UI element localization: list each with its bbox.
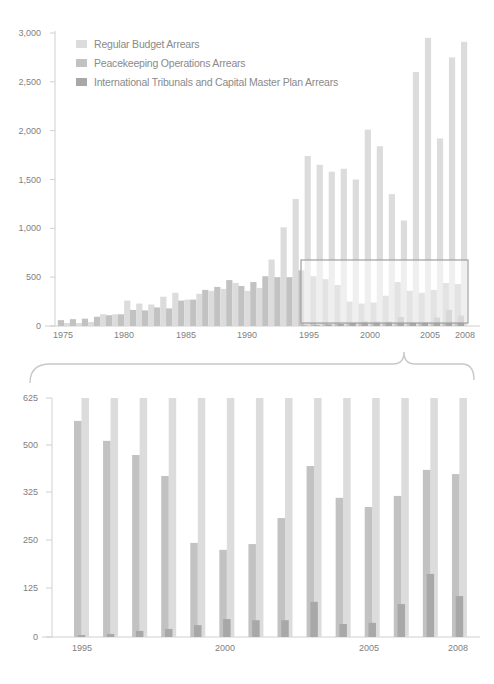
bar-regular-budget	[154, 307, 160, 326]
bar-tribunals	[252, 620, 260, 637]
bar-peacekeeping	[172, 293, 178, 326]
x-tick-label: 2000	[215, 643, 235, 653]
bar-regular-budget	[238, 286, 244, 326]
bar-peacekeeping	[227, 398, 235, 637]
bar-regular-budget	[250, 282, 256, 326]
legend-item-peacekeeping: Peacekeeping Operations Arrears	[76, 53, 338, 72]
y-tick-label: 625	[23, 393, 38, 403]
bar-peacekeeping	[160, 297, 166, 326]
bar-regular-budget	[161, 476, 169, 637]
bar-regular-budget	[286, 277, 292, 326]
bar-tribunals	[78, 635, 86, 637]
bar-regular-budget	[190, 300, 196, 326]
bar-tribunals	[165, 629, 173, 637]
legend-swatch-peacekeeping	[76, 59, 87, 67]
bar-tribunals	[368, 623, 376, 637]
bar-peacekeeping	[232, 283, 238, 326]
bar-regular-budget	[130, 310, 136, 326]
bar-peacekeeping	[184, 300, 190, 326]
bar-tribunals	[427, 574, 435, 637]
x-tick-label: 1990	[237, 330, 257, 340]
bar-peacekeeping	[256, 288, 262, 326]
chart-canvas: 05001,0001,5002,0002,5003,00019751980198…	[0, 0, 494, 684]
y-tick-label: 325	[23, 487, 38, 497]
legend-label: International Tribunals and Capital Mast…	[94, 76, 338, 88]
bar-regular-budget	[336, 498, 344, 637]
bar-tribunals	[326, 324, 332, 326]
x-tick-label: 2008	[455, 330, 475, 340]
bar-peacekeeping	[148, 305, 154, 326]
y-tick-label: 1,500	[18, 175, 41, 185]
bar-peacekeeping	[76, 323, 82, 326]
bar-tribunals	[107, 634, 115, 637]
x-tick-label: 1995	[299, 330, 319, 340]
bar-regular-budget	[202, 290, 208, 326]
y-tick-label: 500	[23, 440, 38, 450]
bar-peacekeeping	[111, 398, 119, 637]
legend: Regular Budget Arrears Peacekeeping Oper…	[76, 34, 338, 91]
legend-item-regular-budget: Regular Budget Arrears	[76, 34, 338, 53]
bar-peacekeeping	[196, 294, 202, 326]
legend-swatch-regular	[76, 40, 87, 48]
legend-label: Regular Budget Arrears	[94, 38, 199, 50]
legend-label: Peacekeeping Operations Arrears	[94, 57, 245, 69]
bar-tribunals	[136, 631, 144, 637]
arrears-chart: 05001,0001,5002,0002,5003,00019751980198…	[0, 0, 494, 684]
bar-tribunals	[281, 620, 289, 637]
y-tick-label: 250	[23, 535, 38, 545]
bar-peacekeeping	[285, 398, 293, 637]
bar-regular-budget	[106, 315, 112, 326]
y-tick-label: 3,000	[18, 28, 41, 38]
x-tick-label: 2008	[448, 643, 468, 653]
y-tick-label: 2,000	[18, 126, 41, 136]
bar-peacekeeping	[140, 398, 148, 637]
bar-peacekeeping	[256, 398, 264, 637]
bar-tribunals	[339, 624, 347, 637]
legend-swatch-tribunals	[76, 78, 87, 86]
bar-regular-budget	[82, 319, 88, 326]
bar-tribunals	[194, 625, 202, 637]
bar-regular-budget	[118, 314, 124, 326]
bar-regular-budget	[94, 317, 100, 326]
bar-tribunals	[338, 324, 344, 326]
bar-peacekeeping	[112, 314, 118, 326]
bar-regular-budget	[226, 280, 232, 326]
bar-tribunals	[456, 596, 464, 637]
bar-peacekeeping	[293, 199, 299, 326]
y-tick-label: 0	[33, 632, 38, 642]
x-tick-label: 2005	[359, 643, 379, 653]
bar-peacekeeping	[220, 289, 226, 326]
zoom-region-box	[301, 260, 468, 323]
bar-tribunals	[398, 604, 406, 637]
x-tick-label: 1995	[72, 643, 92, 653]
bar-regular-budget	[274, 277, 280, 326]
bar-peacekeeping	[343, 398, 351, 637]
x-tick-label: 1975	[53, 330, 73, 340]
y-tick-label: 125	[23, 583, 38, 593]
bar-regular-budget	[178, 301, 184, 326]
bar-peacekeeping	[82, 398, 90, 637]
bar-regular-budget	[70, 319, 76, 326]
bar-peacekeeping	[136, 304, 142, 326]
bar-peacekeeping	[372, 398, 380, 637]
y-tick-label: 2,500	[18, 77, 41, 87]
bar-tribunals	[314, 325, 320, 326]
bar-regular-budget	[132, 455, 140, 637]
x-tick-label: 2005	[420, 330, 440, 340]
bar-peacekeeping	[244, 291, 250, 326]
bar-peacekeeping	[281, 227, 287, 326]
bar-peacekeeping	[314, 398, 322, 637]
bar-regular-budget	[103, 441, 111, 637]
bar-regular-budget	[214, 287, 220, 326]
bar-peacekeeping	[208, 291, 214, 326]
bar-peacekeeping	[88, 322, 94, 326]
bar-peacekeeping	[124, 301, 130, 326]
bar-peacekeeping	[269, 260, 275, 326]
bar-peacekeeping	[169, 398, 177, 637]
bar-regular-budget	[262, 276, 268, 326]
y-tick-label: 1,000	[18, 223, 41, 233]
bar-regular-budget	[142, 310, 148, 326]
bar-regular-budget	[58, 320, 64, 326]
x-tick-label: 1980	[114, 330, 134, 340]
bar-tribunals	[310, 602, 318, 637]
